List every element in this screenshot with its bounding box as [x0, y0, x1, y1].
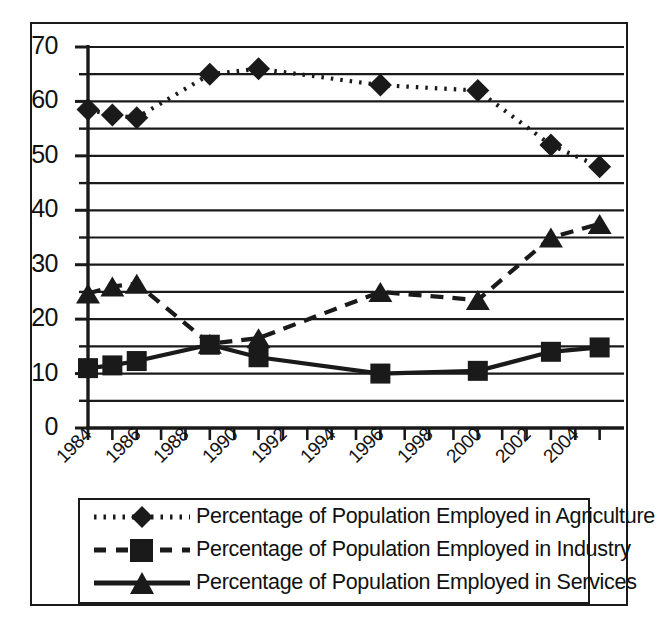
y-axis-tick-label: 40 — [14, 194, 58, 223]
legend-key-square-dashed-icon — [88, 535, 196, 565]
legend-key-triangle-solid-icon — [88, 568, 196, 598]
legend-item-industry: Percentage of Population Employed in Ind… — [80, 533, 588, 566]
y-axis-tick-label: 30 — [14, 249, 58, 278]
chart-legend: Percentage of Population Employed in Agr… — [78, 498, 590, 604]
figure-canvas: 010203040506070 198419861988199019921994… — [0, 0, 664, 635]
y-axis-tick-label: 70 — [14, 31, 58, 60]
y-axis-tick-label: 10 — [14, 358, 58, 387]
legend-label-agriculture: Percentage of Population Employed in Agr… — [196, 504, 655, 529]
legend-label-industry: Percentage of Population Employed in Ind… — [196, 537, 631, 562]
legend-label-services: Percentage of Population Employed in Ser… — [196, 570, 637, 595]
legend-item-agriculture: Percentage of Population Employed in Agr… — [80, 500, 588, 533]
y-axis-tick-label: 50 — [14, 140, 58, 169]
y-axis-tick-label: 60 — [14, 85, 58, 114]
legend-key-diamond-dotted-icon — [88, 502, 196, 532]
y-axis-tick-label: 0 — [14, 412, 58, 441]
legend-item-services: Percentage of Population Employed in Ser… — [80, 566, 588, 599]
y-axis-tick-label: 20 — [14, 303, 58, 332]
